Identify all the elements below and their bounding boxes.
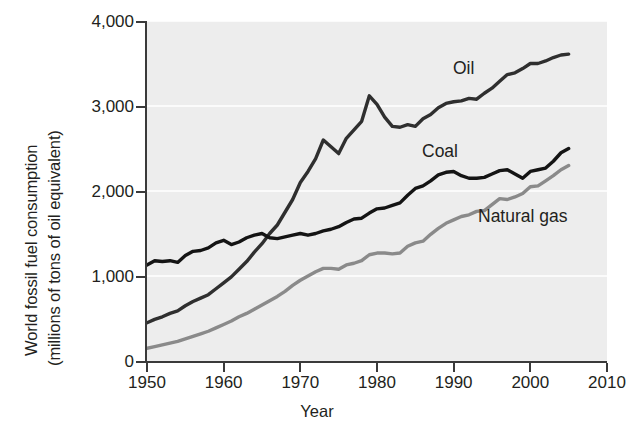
y-tick-mark-2000 [136, 191, 145, 193]
series-canvas [147, 21, 607, 361]
x-tick-label-1970: 1970 [270, 374, 330, 391]
x-tick-label-2000: 2000 [500, 374, 560, 391]
y-tick-label-3000: 3,000 [58, 98, 134, 115]
x-tick-label-1980: 1980 [347, 374, 407, 391]
y-axis-title: World fossil fuel consumption (millions … [0, 0, 62, 380]
x-tick-label-1950: 1950 [117, 374, 177, 391]
y-tick-mark-3000 [136, 106, 145, 108]
x-tick-mark-1950 [146, 363, 148, 372]
y-tick-label-0: 0 [58, 353, 134, 370]
y-tick-mark-4000 [136, 21, 145, 23]
x-tick-mark-2000 [529, 363, 531, 372]
y-tick-label-1000: 1,000 [58, 268, 134, 285]
fossil-fuel-consumption-chart: World fossil fuel consumption (millions … [0, 0, 634, 427]
y-tick-mark-1000 [136, 276, 145, 278]
x-tick-label-1960: 1960 [194, 374, 254, 391]
gridlines [147, 21, 607, 276]
y-axis-tick-labels: 01,0002,0003,0004,000 [58, 0, 134, 400]
series-line-oil [147, 54, 569, 323]
y-tick-label-4000: 4,000 [58, 13, 134, 30]
series-label-oil: Oil [453, 60, 474, 78]
x-axis-title: Year [0, 402, 634, 421]
x-tick-mark-1990 [453, 363, 455, 372]
y-tick-mark-0 [136, 361, 145, 363]
series-line-natural-gas [147, 166, 569, 349]
x-tick-mark-2010 [606, 363, 608, 372]
y-axis-line [145, 21, 147, 363]
x-tick-label-2010: 2010 [577, 374, 634, 391]
x-axis-tick-labels: 1950196019701980199020002010 [0, 374, 634, 398]
x-tick-mark-1980 [376, 363, 378, 372]
plot-area [147, 21, 607, 361]
series-lines [147, 54, 569, 348]
y-tick-label-2000: 2,000 [58, 183, 134, 200]
series-label-coal: Coal [422, 143, 458, 161]
y-axis-title-line-1: World fossil fuel consumption [22, 145, 41, 356]
series-label-natural-gas: Natural gas [478, 208, 568, 226]
x-tick-label-1990: 1990 [424, 374, 484, 391]
x-tick-mark-1970 [299, 363, 301, 372]
x-tick-mark-1960 [223, 363, 225, 372]
